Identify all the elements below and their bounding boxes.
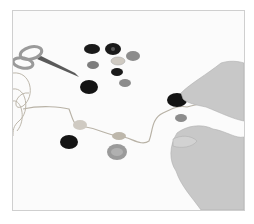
- scissors-icon: [13, 44, 79, 77]
- string-coil: [13, 73, 30, 136]
- threaded-buttons: [73, 93, 187, 140]
- hands: [171, 61, 244, 210]
- photo-frame: [12, 10, 245, 211]
- loose-buttons: [60, 43, 140, 160]
- photo-scene: [13, 11, 244, 210]
